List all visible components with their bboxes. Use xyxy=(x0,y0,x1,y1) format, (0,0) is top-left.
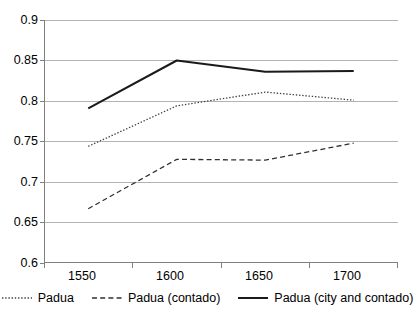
legend-item-padua-city-and-contado[interactable]: Padua (city and contado) xyxy=(238,292,413,305)
gridline-0.9 xyxy=(44,20,398,21)
x-tick-mark-2 xyxy=(221,263,222,268)
solid-line-swatch xyxy=(238,293,268,303)
legend-label-padua-contado: Padua (contado) xyxy=(128,292,220,305)
chart-legend: Padua Padua (contado) Padua (city and co… xyxy=(0,292,415,305)
y-tick-mark-1 xyxy=(40,60,44,61)
plot-area xyxy=(44,20,398,263)
y-tick-label-3: 0.75 xyxy=(2,135,38,147)
y-tick-mark-4 xyxy=(40,182,44,183)
y-tick-mark-3 xyxy=(40,141,44,142)
x-tick-label-3: 1700 xyxy=(317,270,377,282)
y-tick-label-5: 0.65 xyxy=(2,216,38,228)
dashed-line-swatch xyxy=(92,293,122,303)
line-chart: 0.9 0.85 0.8 0.75 0.7 0.65 0.6 1550 1600… xyxy=(0,0,415,322)
legend-label-padua-city-and-contado: Padua (city and contado) xyxy=(274,292,413,305)
legend-item-padua-contado[interactable]: Padua (contado) xyxy=(92,292,220,305)
gridline-0.7 xyxy=(44,182,398,183)
x-tick-mark-4 xyxy=(397,263,398,268)
y-tick-label-4: 0.7 xyxy=(2,176,38,188)
x-tick-mark-3 xyxy=(309,263,310,268)
dotted-line-swatch xyxy=(2,293,32,303)
x-tick-label-2: 1650 xyxy=(229,270,289,282)
y-tick-label-0: 0.9 xyxy=(2,14,38,26)
y-tick-mark-2 xyxy=(40,101,44,102)
x-tick-mark-1 xyxy=(132,263,133,268)
y-tick-label-2: 0.8 xyxy=(2,95,38,107)
x-tick-label-0: 1550 xyxy=(52,270,112,282)
gridline-0.75 xyxy=(44,141,398,142)
y-tick-mark-0 xyxy=(40,20,44,21)
y-tick-label-6: 0.6 xyxy=(2,257,38,269)
legend-item-padua[interactable]: Padua xyxy=(2,292,74,305)
gridline-0.65 xyxy=(44,222,398,223)
y-axis-line xyxy=(44,20,45,263)
x-tick-mark-0 xyxy=(44,263,45,268)
y-tick-mark-5 xyxy=(40,222,44,223)
x-tick-label-1: 1600 xyxy=(140,270,200,282)
gridline-0.8 xyxy=(44,101,398,102)
legend-label-padua: Padua xyxy=(38,292,74,305)
y-tick-label-1: 0.85 xyxy=(2,54,38,66)
gridline-0.85 xyxy=(44,60,398,61)
